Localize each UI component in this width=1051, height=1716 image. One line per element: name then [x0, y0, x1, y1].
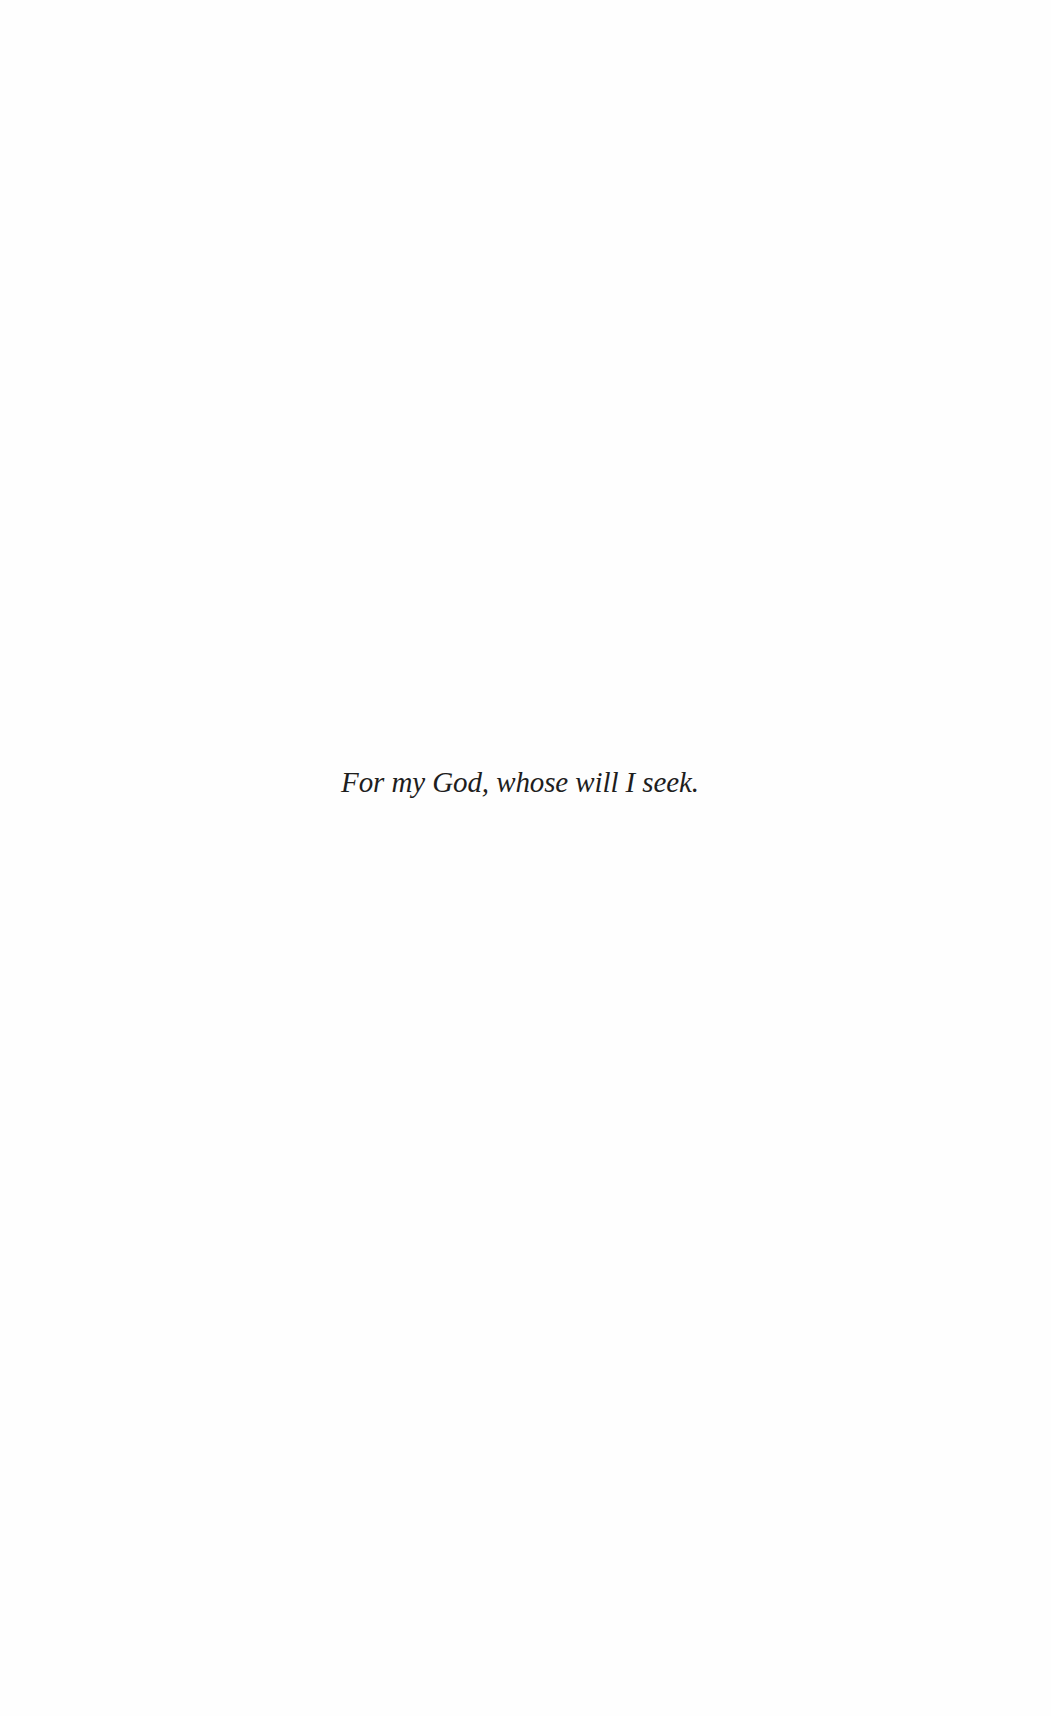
book-page: For my God, whose will I seek.: [0, 0, 1051, 1716]
dedication-text: For my God, whose will I seek.: [0, 762, 1040, 802]
